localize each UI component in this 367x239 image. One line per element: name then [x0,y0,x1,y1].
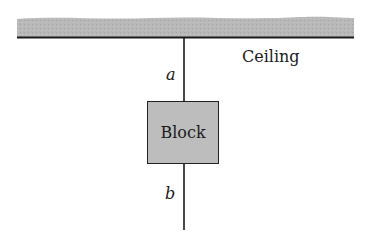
ceiling-block-diagram: Ceiling a Block b [0,0,367,239]
rope-a-label: a [166,67,176,83]
block: Block [147,101,219,164]
ceiling-band [17,17,354,37]
ceiling-label: Ceiling [242,49,300,65]
rope-b-label: b [165,186,175,202]
block-label: Block [160,123,205,142]
